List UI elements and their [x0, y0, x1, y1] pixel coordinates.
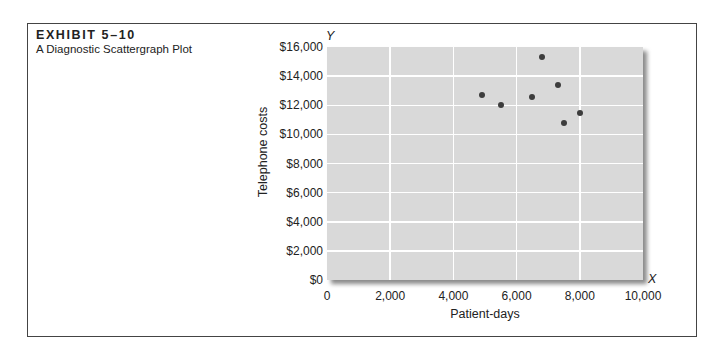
gridline-horizontal	[327, 134, 643, 136]
y-tick-label: $14,000	[280, 69, 323, 83]
gridline-horizontal	[327, 250, 643, 252]
y-tick-label: $0	[310, 273, 323, 287]
y-tick-label: $10,000	[280, 127, 323, 141]
x-tick-label: 10,000	[625, 289, 662, 303]
y-tick-label: $4,000	[286, 215, 323, 229]
y-tick-label: $12,000	[280, 98, 323, 112]
gridline-vertical	[516, 47, 518, 280]
gridline-vertical	[389, 47, 391, 280]
x-axis-letter: X	[648, 272, 656, 286]
x-tick-label: 0	[324, 289, 331, 303]
y-tick-label: $16,000	[280, 40, 323, 54]
data-point	[498, 102, 504, 108]
y-axis-letter: Y	[326, 29, 334, 43]
x-tick-label: 2,000	[375, 289, 405, 303]
plot-area	[327, 47, 643, 280]
y-tick-label: $6,000	[286, 186, 323, 200]
x-tick-label: 6,000	[502, 289, 532, 303]
x-axis-title: Patient-days	[450, 307, 519, 321]
data-point	[577, 110, 583, 116]
data-point	[555, 82, 561, 88]
gridline-horizontal	[327, 75, 643, 77]
y-axis-title: Telephone costs	[256, 107, 270, 197]
gridline-horizontal	[327, 221, 643, 223]
gridline-horizontal	[327, 163, 643, 165]
y-tick-label: $2,000	[286, 244, 323, 258]
data-point	[539, 54, 545, 60]
data-point	[529, 94, 535, 100]
data-point	[479, 92, 485, 98]
gridline-vertical	[579, 47, 581, 280]
exhibit-number: EXHIBIT 5–10	[36, 28, 136, 42]
y-tick-label: $8,000	[286, 157, 323, 171]
gridline-horizontal	[327, 192, 643, 194]
exhibit-title: A Diagnostic Scattergraph Plot	[36, 43, 192, 55]
x-tick-label: 8,000	[565, 289, 595, 303]
x-tick-label: 4,000	[438, 289, 468, 303]
data-point	[561, 120, 567, 126]
gridline-vertical	[453, 47, 455, 280]
gridline-horizontal	[327, 105, 643, 107]
